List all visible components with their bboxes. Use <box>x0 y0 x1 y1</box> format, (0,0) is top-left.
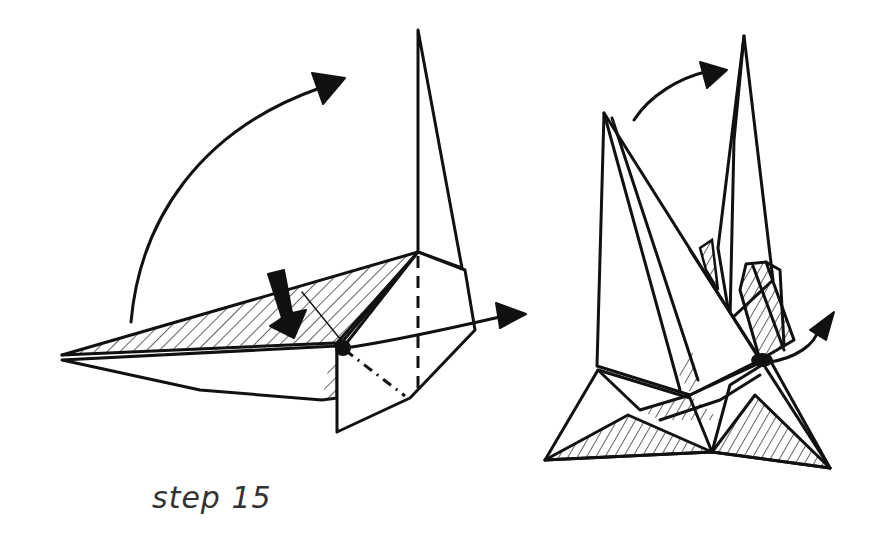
arrowhead-icon <box>496 303 526 328</box>
tall-spike <box>418 30 462 268</box>
right-figure <box>545 36 834 468</box>
step-caption: step 15 <box>152 480 272 515</box>
arrowhead-icon <box>810 312 834 340</box>
arrowhead-icon <box>312 73 345 104</box>
curved-rotation-arrow <box>131 88 320 322</box>
origami-diagram <box>0 0 880 536</box>
arrowhead-icon <box>700 62 727 88</box>
curved-rotation-arrow <box>634 72 705 120</box>
left-figure <box>62 30 526 432</box>
pivot-point <box>335 340 351 356</box>
